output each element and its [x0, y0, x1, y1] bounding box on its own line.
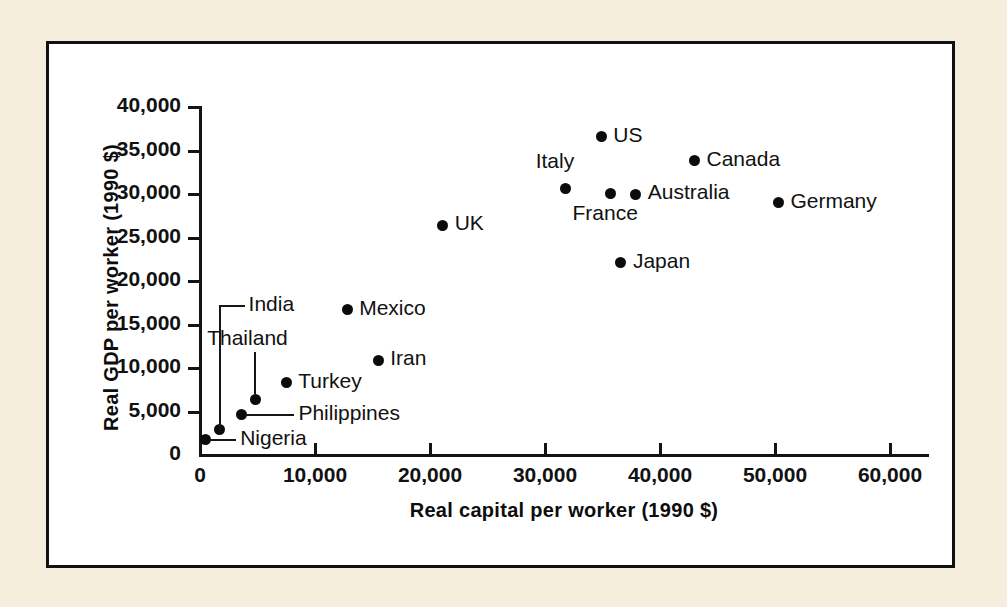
x-axis-title: Real capital per worker (1990 $) — [199, 499, 929, 522]
point-label-uk: UK — [455, 211, 484, 235]
leader-line-india-h — [219, 305, 245, 307]
point-label-nigeria: Nigeria — [240, 426, 307, 450]
point-label-canada: Canada — [707, 147, 781, 171]
data-point-thailand[interactable] — [250, 394, 261, 405]
point-label-us: US — [613, 123, 642, 147]
leader-line-nigeria — [210, 439, 236, 441]
x-axis-tick-label: 30,000 — [513, 463, 577, 487]
x-axis-tick-label: 60,000 — [858, 463, 922, 487]
point-label-japan: Japan — [633, 249, 690, 273]
leader-line-thailand — [254, 352, 256, 394]
data-point-us[interactable] — [596, 131, 607, 142]
data-point-italy[interactable] — [560, 183, 571, 194]
x-axis-tick — [314, 443, 317, 457]
data-point-germany[interactable] — [773, 197, 784, 208]
data-point-canada[interactable] — [689, 155, 700, 166]
data-point-turkey[interactable] — [281, 377, 292, 388]
y-axis-title: Real GDP per worker (1990 $) — [100, 108, 123, 468]
y-axis-tick — [188, 237, 202, 240]
point-label-france: France — [573, 201, 638, 225]
x-axis-tick — [889, 443, 892, 457]
figure-frame: 05,00010,00015,00020,00025,00030,00035,0… — [46, 41, 955, 568]
x-axis-tick-label: 50,000 — [743, 463, 807, 487]
point-label-india: India — [249, 292, 295, 316]
point-label-mexico: Mexico — [359, 296, 426, 320]
plot-area: 05,00010,00015,00020,00025,00030,00035,0… — [49, 44, 952, 565]
x-axis-tick-label: 20,000 — [398, 463, 462, 487]
leader-line-philippines — [246, 414, 294, 416]
figure-page: 05,00010,00015,00020,00025,00030,00035,0… — [0, 0, 1007, 607]
point-label-iran: Iran — [390, 346, 426, 370]
leader-line-india — [219, 305, 221, 429]
y-axis-tick — [188, 367, 202, 370]
y-axis-tick — [188, 324, 202, 327]
y-axis-tick — [188, 106, 202, 109]
x-axis-tick — [659, 443, 662, 457]
x-axis-tick — [774, 443, 777, 457]
data-point-australia[interactable] — [630, 189, 641, 200]
point-label-philippines: Philippines — [298, 401, 400, 425]
data-point-nigeria[interactable] — [200, 434, 211, 445]
data-point-japan[interactable] — [615, 257, 626, 268]
point-label-italy: Italy — [536, 149, 575, 173]
y-axis-tick — [188, 193, 202, 196]
data-point-france[interactable] — [605, 188, 616, 199]
x-axis-tick-label: 40,000 — [628, 463, 692, 487]
x-axis-tick-label: 10,000 — [283, 463, 347, 487]
point-label-australia: Australia — [648, 180, 730, 204]
x-axis-tick — [544, 443, 547, 457]
point-label-turkey: Turkey — [298, 369, 361, 393]
data-point-mexico[interactable] — [342, 304, 353, 315]
x-axis-tick-label: 0 — [194, 463, 206, 487]
y-axis-tick — [188, 411, 202, 414]
y-axis-tick — [188, 150, 202, 153]
point-label-germany: Germany — [790, 189, 876, 213]
data-point-iran[interactable] — [373, 355, 384, 366]
data-point-philippines[interactable] — [236, 409, 247, 420]
data-point-uk[interactable] — [437, 220, 448, 231]
y-axis-tick — [188, 280, 202, 283]
x-axis-tick — [429, 443, 432, 457]
x-axis-line — [199, 454, 929, 457]
